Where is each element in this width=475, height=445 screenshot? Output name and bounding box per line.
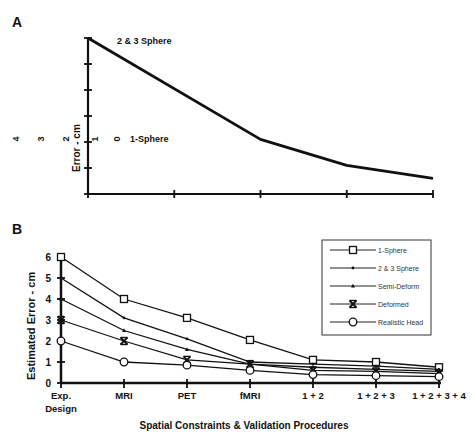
svg-text:4: 4: [45, 294, 51, 305]
panel-a-ylabel: Error - cm: [71, 124, 82, 172]
svg-text:PET: PET: [178, 390, 197, 401]
svg-text:2: 2: [61, 136, 71, 141]
svg-text:Deformed: Deformed: [378, 301, 409, 308]
svg-text:Exp.: Exp.: [51, 390, 71, 401]
svg-text:1 + 2: 1 + 2: [302, 390, 323, 401]
svg-text:Semi-Deform: Semi-Deform: [378, 283, 419, 290]
svg-text:Realistic Head: Realistic Head: [378, 319, 423, 326]
svg-text:3: 3: [36, 136, 46, 141]
svg-text:2 & 3 Sphere: 2 & 3 Sphere: [378, 265, 419, 273]
svg-text:MRI: MRI: [115, 390, 132, 401]
panel-a-annotation-top: 2 & 3 Sphere: [117, 36, 172, 46]
svg-text:0: 0: [45, 378, 51, 389]
legend: 1-Sphere2 & 3 SphereSemi-DeformDeformedR…: [322, 240, 431, 335]
panel-b-ylabel: Estimated Error - cm: [25, 272, 37, 380]
svg-text:5: 5: [45, 273, 51, 284]
panel-a-annotation-bottom: 1-Sphere: [130, 134, 169, 144]
svg-text:1 + 2 + 3 + 4: 1 + 2 + 3 + 4: [412, 390, 466, 401]
svg-text:1: 1: [45, 357, 51, 368]
chart-canvas: A 2 & 3 Sphere 1-Sphere Error - cm 43210…: [0, 0, 475, 445]
svg-text:fMRI: fMRI: [240, 390, 261, 401]
svg-text:Design: Design: [45, 403, 77, 414]
figure: A 2 & 3 Sphere 1-Sphere Error - cm 43210…: [0, 0, 475, 445]
svg-text:1 + 2 + 3: 1 + 2 + 3: [357, 390, 395, 401]
panel-a-rotated-tick-labels: 43210: [11, 136, 122, 141]
svg-text:3: 3: [45, 315, 51, 326]
svg-text:6: 6: [45, 252, 51, 263]
svg-text:0: 0: [112, 136, 122, 141]
panel-a-plot: [84, 38, 433, 198]
panel-b-label: B: [12, 221, 22, 237]
svg-text:1-Sphere: 1-Sphere: [378, 247, 407, 255]
svg-text:2: 2: [45, 336, 51, 347]
svg-text:4: 4: [11, 136, 21, 141]
panel-a-label: A: [12, 14, 22, 30]
svg-text:1: 1: [90, 136, 100, 141]
panel-b-xlabel: Spatial Constraints & Validation Procedu…: [140, 420, 349, 431]
